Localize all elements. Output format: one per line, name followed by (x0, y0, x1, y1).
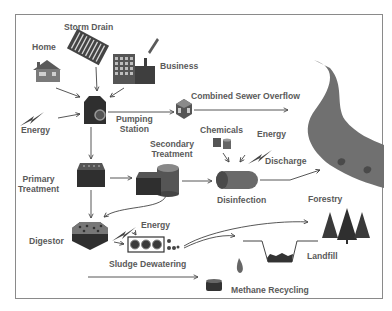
press-icon (128, 237, 180, 252)
sludge-dewatering-label: Sludge Dewatering (109, 259, 186, 269)
lightning-icon (20, 112, 44, 126)
house-icon (33, 60, 61, 82)
business-label: Business (160, 61, 198, 71)
barrels-icon (213, 138, 231, 149)
discharge-label: Discharge (265, 156, 307, 166)
pumping-station-label: Pumping Station (116, 114, 153, 134)
landfill-label: Landfill (307, 251, 338, 261)
cylinder-icon (216, 171, 258, 189)
cube-icon (176, 99, 192, 119)
primary-treatment-label: Primary Treatment (18, 174, 59, 194)
tank-cylinder-icon (136, 164, 179, 197)
combined-sewer-overflow-label: Combined Sewer Overflow (191, 91, 300, 101)
storm-drain-label: Storm Drain (64, 22, 113, 32)
factory-icon (113, 38, 159, 84)
secondary-treatment-label: Secondary Treatment (150, 139, 194, 159)
river-icon (308, 60, 384, 188)
disinfection-label: Disinfection (217, 195, 266, 205)
pump-icon (84, 96, 106, 124)
trees-icon (322, 208, 370, 244)
home-label: Home (32, 42, 56, 52)
tank-icon (77, 163, 105, 187)
process-diagram (0, 0, 392, 311)
energy-label: Energy (21, 125, 50, 135)
energy-label: Energy (257, 129, 286, 139)
forestry-label: Forestry (308, 194, 342, 204)
methane-recycling-label: Methane Recycling (231, 285, 309, 295)
energy-label: Energy (141, 220, 170, 230)
digestor-label: Digestor (29, 236, 64, 246)
grate-icon (67, 29, 109, 65)
chemicals-label: Chemicals (200, 125, 243, 135)
digestor-icon (72, 222, 108, 250)
